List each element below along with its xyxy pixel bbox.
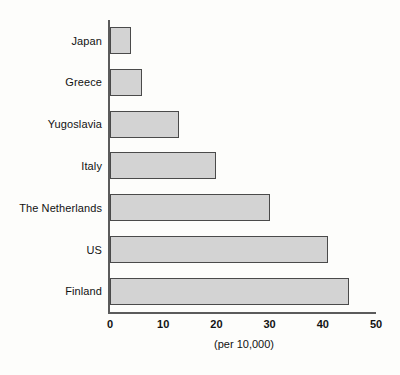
- x-tick-label-0: 0: [90, 318, 130, 330]
- category-label-italy: Italy: [2, 160, 102, 172]
- x-tick-label-50: 50: [356, 318, 396, 330]
- category-label-japan: Japan: [2, 35, 102, 47]
- category-axis-labels: JapanGreeceYugoslaviaItalyThe Netherland…: [0, 20, 102, 313]
- bar-italy: [110, 152, 216, 179]
- bar-the-netherlands: [110, 194, 270, 221]
- x-axis-tick-labels: 01020304050: [0, 318, 400, 334]
- category-label-the-netherlands: The Netherlands: [2, 202, 102, 214]
- bar-japan: [110, 27, 131, 54]
- x-tick-label-20: 20: [196, 318, 236, 330]
- plot-area: [110, 20, 376, 313]
- category-label-yugoslavia: Yugoslavia: [2, 118, 102, 130]
- bar-us: [110, 236, 328, 263]
- x-tick-label-10: 10: [143, 318, 183, 330]
- bar-finland: [110, 278, 349, 305]
- x-tick-label-30: 30: [250, 318, 290, 330]
- category-label-us: US: [2, 244, 102, 256]
- bar-greece: [110, 69, 142, 96]
- category-label-greece: Greece: [2, 76, 102, 88]
- x-tick-label-40: 40: [303, 318, 343, 330]
- bar-chart: JapanGreeceYugoslaviaItalyThe Netherland…: [0, 0, 400, 375]
- x-axis-title: (per 10,000): [110, 338, 378, 350]
- bar-yugoslavia: [110, 111, 179, 138]
- category-label-finland: Finland: [2, 285, 102, 297]
